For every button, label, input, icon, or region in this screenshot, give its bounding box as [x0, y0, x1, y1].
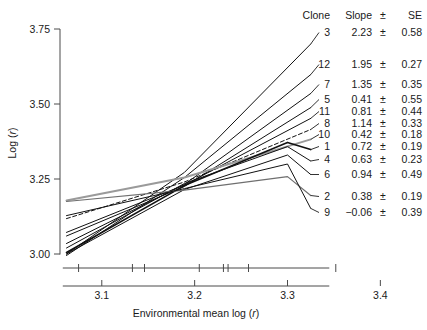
plusminus-5: ±: [380, 93, 386, 105]
se-value-12: 0.27: [402, 58, 423, 70]
slope-value-11: 0.81: [352, 105, 373, 117]
x-axis-title: Environmental mean log (r): [133, 307, 260, 319]
se-value-11: 0.44: [402, 105, 423, 117]
slope-value-3: 2.23: [352, 26, 373, 38]
x-axis: 3.13.23.33.4Environmental mean log (r): [63, 280, 388, 319]
clone-label-5: 5: [324, 93, 330, 105]
reaction-norm-plot: 3.003.253.503.75Log (r)CloneSlope±SE32.2…: [0, 0, 427, 330]
reaction-norm-line-clone-5: [67, 108, 311, 236]
clone-label-7: 7: [324, 78, 330, 90]
se-value-10: 0.18: [402, 128, 423, 140]
plusminus-9: ±: [380, 206, 386, 218]
plusminus-4: ±: [380, 153, 386, 165]
slope-value-1: 0.72: [352, 140, 373, 152]
plusminus-2: ±: [380, 190, 386, 202]
plusminus-6: ±: [380, 168, 386, 180]
table-header-slope: Slope: [345, 9, 372, 21]
y-axis-title: Log (r): [6, 128, 18, 159]
clone-label-6: 6: [324, 168, 330, 180]
chart-figure: 3.003.253.503.75Log (r)CloneSlope±SE32.2…: [0, 0, 427, 330]
x-tick-label: 3.3: [280, 289, 295, 301]
slope-value-5: 0.41: [352, 93, 373, 105]
se-value-2: 0.19: [402, 190, 423, 202]
y-tick-label: 3.00: [30, 248, 51, 260]
x-tick-label: 3.4: [373, 289, 388, 301]
y-axis: 3.003.253.503.75Log (r): [6, 23, 60, 260]
slope-value-9: −0.06: [345, 206, 372, 218]
slope-value-6: 0.94: [352, 168, 373, 180]
legend-table: CloneSlope±SE32.23±0.58121.95±0.2771.35±…: [303, 9, 423, 218]
leader-line-clone-1: [311, 147, 319, 150]
plusminus-10: ±: [380, 128, 386, 140]
plusminus-12: ±: [380, 58, 386, 70]
leader-line-clone-7: [311, 85, 319, 94]
leader-line-clone-4: [311, 160, 319, 162]
plusminus-7: ±: [380, 78, 386, 90]
se-value-7: 0.35: [402, 78, 423, 90]
plusminus-1: ±: [380, 140, 386, 152]
slope-value-7: 1.35: [352, 78, 373, 90]
clone-label-9: 9: [324, 206, 330, 218]
slope-value-10: 0.42: [352, 128, 373, 140]
leader-line-clone-5: [311, 100, 319, 108]
se-value-1: 0.19: [402, 140, 423, 152]
reaction-norm-line-clone-4: [67, 147, 311, 248]
se-value-9: 0.39: [402, 206, 423, 218]
table-header-plusminus: ±: [380, 9, 386, 21]
data-series: [67, 44, 311, 256]
y-tick-label: 3.25: [30, 173, 51, 185]
clone-label-4: 4: [324, 153, 330, 165]
se-value-5: 0.55: [402, 93, 423, 105]
reaction-norm-line-clone-6: [67, 155, 311, 254]
rug-plot: [63, 264, 336, 272]
se-value-6: 0.49: [402, 168, 423, 180]
leader-line-clone-11: [311, 112, 319, 119]
table-header-se: SE: [408, 9, 422, 21]
clone-label-2: 2: [324, 190, 330, 202]
leader-line-clone-2: [311, 196, 319, 197]
leader-line-clone-3: [311, 33, 319, 45]
clone-label-10: 10: [318, 128, 330, 140]
reaction-norm-line-clone-3: [67, 44, 311, 254]
plusminus-11: ±: [380, 105, 386, 117]
y-tick-label: 3.75: [30, 23, 51, 35]
slope-value-4: 0.63: [352, 153, 373, 165]
clone-label-11: 11: [319, 105, 330, 117]
x-tick-label: 3.2: [187, 289, 202, 301]
se-value-4: 0.23: [402, 153, 423, 165]
slope-value-2: 0.38: [352, 190, 373, 202]
plusminus-3: ±: [380, 26, 386, 38]
clone-label-12: 12: [318, 58, 330, 70]
y-tick-label: 3.50: [30, 98, 51, 110]
se-value-3: 0.58: [402, 26, 423, 38]
clone-label-3: 3: [324, 26, 330, 38]
leader-line-clone-9: [311, 208, 319, 212]
slope-value-12: 1.95: [352, 58, 373, 70]
table-header-clone: Clone: [303, 9, 331, 21]
x-tick-label: 3.1: [94, 289, 109, 301]
clone-label-1: 1: [324, 140, 330, 152]
